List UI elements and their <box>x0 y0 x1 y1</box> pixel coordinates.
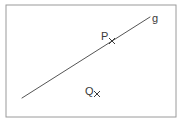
geometry-figure: g P Q <box>0 0 184 130</box>
point-p-label: P <box>101 30 108 42</box>
figure-frame <box>6 5 176 117</box>
line-g-label: g <box>152 12 158 24</box>
point-q-label: Q <box>85 85 94 97</box>
figure-canvas: g P Q <box>0 0 184 130</box>
